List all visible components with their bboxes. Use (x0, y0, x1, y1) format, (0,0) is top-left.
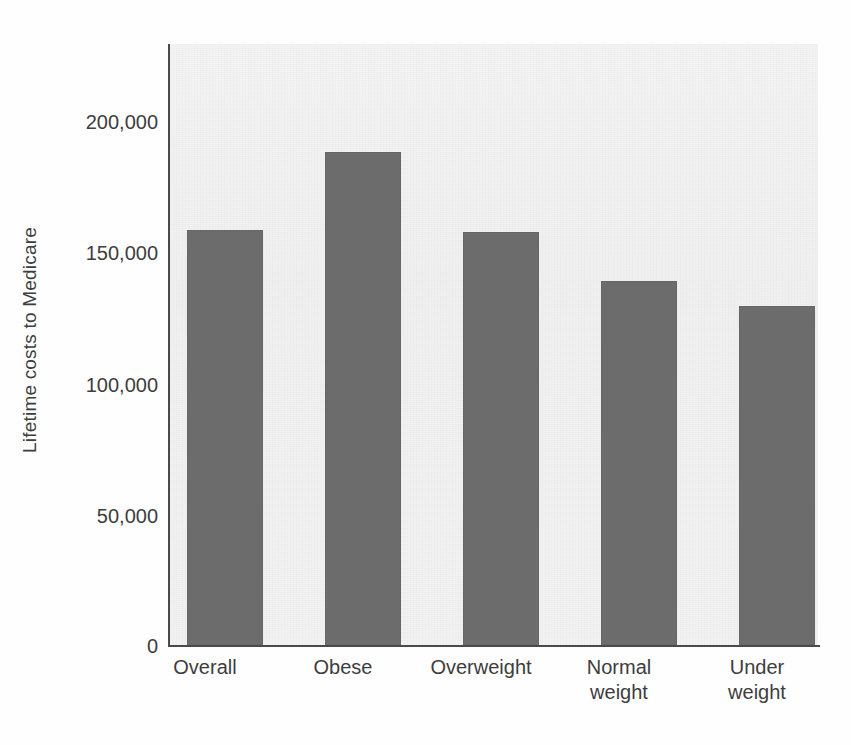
bar-normal-weight[interactable] (601, 281, 677, 645)
plot-area (170, 44, 818, 645)
y-axis-tick-labels: 200,000 150,000 100,000 50,000 0 (0, 0, 158, 745)
x-tick-label-obese: Obese (270, 655, 416, 680)
y-tick-label-50000: 50,000 (8, 506, 158, 526)
y-tick-label-0: 0 (8, 636, 158, 656)
x-tick-label-overall: Overall (132, 655, 278, 680)
x-axis-line (168, 645, 820, 647)
y-axis-line (168, 44, 170, 646)
bar-overweight[interactable] (463, 232, 539, 645)
x-tick-label-under-weight: Under weight (684, 655, 830, 705)
y-tick-label-150000: 150,000 (8, 243, 158, 263)
y-tick-label-200000: 200,000 (8, 112, 158, 132)
bar-obese[interactable] (325, 152, 401, 645)
x-tick-label-normal-weight: Normal weight (546, 655, 692, 705)
bar-overall[interactable] (187, 230, 263, 645)
x-tick-label-overweight: Overweight (408, 655, 554, 680)
y-tick-label-100000: 100,000 (8, 375, 158, 395)
bar-chart-figure: Lifetime costs to Medicare 200,000 150,0… (0, 0, 851, 745)
bar-under-weight[interactable] (739, 306, 815, 645)
